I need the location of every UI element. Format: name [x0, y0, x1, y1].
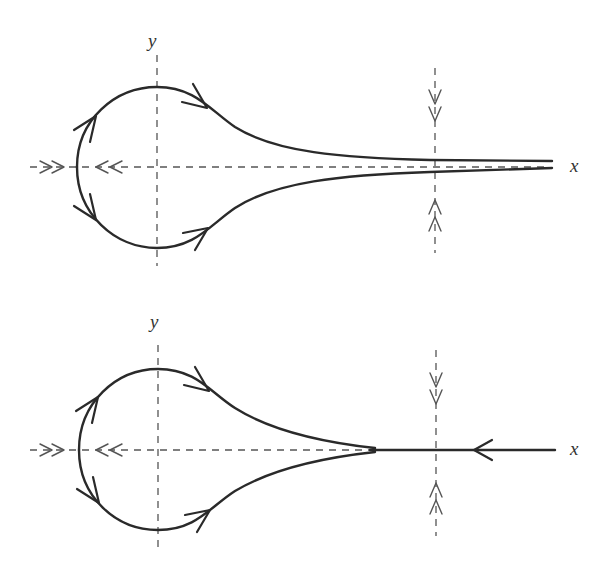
bottom-upper-orbit — [79, 369, 375, 450]
top-upper-orbit — [77, 87, 552, 167]
phase-portraits: y x y x — [0, 0, 607, 576]
top-x-label: x — [569, 155, 579, 176]
top-lower-orbit — [77, 167, 552, 248]
bottom-y-label: y — [148, 311, 159, 332]
top-diagram: y x — [30, 30, 579, 266]
bottom-diagram: y x — [30, 311, 579, 550]
bottom-lower-orbit — [79, 450, 375, 530]
bottom-x-label: x — [569, 438, 579, 459]
top-x-double-arrows — [40, 161, 122, 173]
top-y-label: y — [146, 30, 157, 51]
bottom-x-double-arrows — [40, 444, 122, 456]
